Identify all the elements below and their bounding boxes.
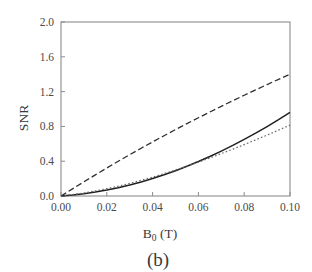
figure-panel-b: 0.000.020.040.060.080.10 0.00.40.81.21.6… — [0, 0, 312, 272]
chart-canvas: 0.000.020.040.060.080.10 0.00.40.81.21.6… — [0, 0, 312, 272]
x-tick-label: 0.10 — [280, 201, 300, 213]
y-tick-label: 1.6 — [40, 51, 55, 63]
y-tick-label: 2.0 — [40, 16, 55, 28]
x-tick-label: 0.00 — [51, 201, 71, 213]
y-axis-title: SNR — [16, 105, 31, 131]
series-dashed-upper — [61, 74, 290, 196]
panel-label: (b) — [147, 249, 169, 271]
y-axis-title-text: SNR — [16, 105, 31, 131]
y-tick-label: 0.0 — [40, 190, 55, 202]
data-series-group — [61, 74, 290, 196]
x-axis-title: B0 (T) — [143, 226, 177, 243]
x-axis-tick-labels: 0.000.020.040.060.080.10 — [51, 201, 300, 213]
y-axis-tick-labels: 0.00.40.81.21.62.0 — [40, 16, 55, 202]
x-axis-title-unit: (T) — [157, 226, 178, 241]
y-tick-label: 1.2 — [40, 86, 55, 98]
series-solid-middle — [61, 112, 290, 196]
y-tick-label: 0.4 — [40, 155, 55, 167]
x-tick-label: 0.02 — [97, 201, 117, 213]
y-axis-ticks — [61, 22, 65, 196]
x-tick-label: 0.04 — [143, 201, 163, 213]
x-tick-label: 0.06 — [188, 201, 208, 213]
y-tick-label: 0.8 — [40, 120, 55, 132]
x-axis-title-text: B0 (T) — [143, 226, 177, 243]
series-dotted-lower — [61, 125, 290, 196]
x-axis-title-base: B — [143, 226, 152, 241]
x-tick-label: 0.08 — [234, 201, 254, 213]
